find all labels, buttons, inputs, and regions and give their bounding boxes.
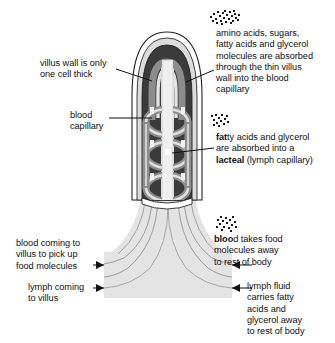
lacteal-label-line1: fatty acids and glycerol	[216, 132, 309, 142]
blood-outgoing-line2: molecules away	[214, 245, 279, 255]
lacteal-label-line2: are absorbed into a	[216, 143, 294, 153]
absorption-label: amino acids, sugars, fatty acids and gly…	[216, 28, 334, 96]
molecule-stipple-icon-bottom	[214, 214, 240, 232]
blood-outgoing-label: blood takes foodmolecules awayto rest of…	[214, 234, 324, 268]
blood-capillary-label: blood capillary	[70, 110, 130, 133]
molecule-stipple-icon-mid	[209, 112, 231, 128]
villus-wall-label: villus wall is only one cell thick	[40, 58, 140, 81]
lacteal-lumen	[162, 60, 173, 205]
blood-outgoing-line3: to rest of body	[214, 257, 271, 267]
lacteal-target-marker	[165, 149, 171, 155]
blood-outgoing-line1: blood takes food	[214, 234, 283, 244]
lymph-outgoing-label: lymph fluid carries fatty acids and glyc…	[247, 281, 333, 337]
molecule-stipple-icon-top	[208, 9, 242, 26]
lacteal-label-line3: lacteal (lymph capillary)	[216, 155, 313, 165]
villus-diagram-figure: villus wall is only one cell thick blood…	[0, 0, 335, 343]
lymph-incoming-label: lymph coming to villus	[28, 282, 108, 305]
lacteal-label: fatty acids and glycerolare absorbed int…	[216, 132, 334, 166]
blood-incoming-label: blood coming to villus to pick up food m…	[16, 238, 108, 272]
